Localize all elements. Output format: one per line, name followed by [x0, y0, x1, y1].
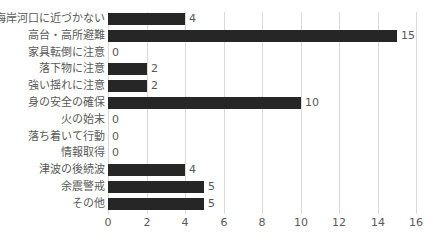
data-label: 5: [208, 196, 215, 212]
bar: [108, 30, 397, 42]
bar: [108, 164, 185, 176]
x-tick-label: 16: [401, 216, 431, 229]
category-label: 情報取得: [61, 145, 105, 161]
bar-row: 津波の後続波4: [0, 162, 436, 178]
data-label: 5: [208, 179, 215, 195]
category-label: その他: [72, 196, 105, 212]
bar: [108, 80, 147, 92]
x-tick-label: 10: [286, 216, 316, 229]
data-label: 2: [151, 61, 158, 77]
bar: [108, 97, 301, 109]
data-label: 0: [112, 45, 119, 61]
bar-row: 落ち着いて行動0: [0, 129, 436, 145]
x-tick-label: 8: [247, 216, 277, 229]
bar-row: 落下物に注意2: [0, 61, 436, 77]
x-tick-label: 4: [170, 216, 200, 229]
data-label: 2: [151, 78, 158, 94]
data-label: 4: [189, 162, 196, 178]
category-label: 高台・高所避難: [28, 28, 105, 44]
data-label: 0: [112, 112, 119, 128]
data-label: 4: [189, 11, 196, 27]
category-label: 落下物に注意: [39, 61, 105, 77]
bar-row: 身の安全の確保10: [0, 95, 436, 111]
category-label: 強い揺れに注意: [28, 78, 105, 94]
x-tick-label: 6: [209, 216, 239, 229]
category-label: 身の安全の確保: [28, 95, 105, 111]
bar-row: 家具転倒に注意0: [0, 45, 436, 61]
bar-row: 火の始末0: [0, 112, 436, 128]
category-label: 余震警戒: [61, 179, 105, 195]
x-tick-label: 2: [132, 216, 162, 229]
bar-row: 海岸河口に近づかない4: [0, 11, 436, 27]
category-label: 津波の後続波: [39, 162, 105, 178]
x-tick-label: 0: [93, 216, 123, 229]
bar-row: 高台・高所避難15: [0, 28, 436, 44]
x-tick-label: 14: [363, 216, 393, 229]
bar: [108, 181, 204, 193]
category-label: 家具転倒に注意: [28, 45, 105, 61]
bar: [108, 63, 147, 75]
bar: [108, 198, 204, 210]
bar-chart: 0246810121416海岸河口に近づかない4高台・高所避難15家具転倒に注意…: [0, 0, 436, 245]
data-label: 0: [112, 145, 119, 161]
data-label: 0: [112, 129, 119, 145]
category-label: 落ち着いて行動: [28, 129, 105, 145]
bar-row: 余震警戒5: [0, 179, 436, 195]
bar-row: 強い揺れに注意2: [0, 78, 436, 94]
bar: [108, 13, 185, 25]
category-label: 火の始末: [61, 112, 105, 128]
bar-row: その他5: [0, 196, 436, 212]
category-label: 海岸河口に近づかない: [0, 11, 105, 27]
data-label: 15: [401, 28, 415, 44]
data-label: 10: [305, 95, 319, 111]
bar-row: 情報取得0: [0, 145, 436, 161]
x-tick-label: 12: [324, 216, 354, 229]
